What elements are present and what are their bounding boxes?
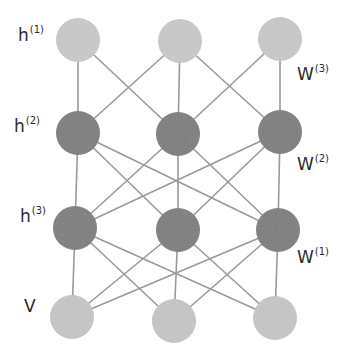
node-v-1 xyxy=(152,299,196,343)
layer-label-1: h(2) xyxy=(14,118,40,135)
layer-label-base: h xyxy=(18,25,29,45)
node-h2-1 xyxy=(156,112,200,156)
layer-label-base: V xyxy=(24,296,36,316)
layer-label-base: h xyxy=(14,116,25,136)
node-h3-2 xyxy=(256,208,300,252)
node-h3-1 xyxy=(156,208,200,252)
layer-label-3: V xyxy=(24,298,36,315)
node-h2-0 xyxy=(56,111,100,155)
weight-label-2: W(1) xyxy=(297,249,329,266)
weight-label-base: W xyxy=(297,64,314,84)
weight-label-0: W(3) xyxy=(297,66,329,83)
node-v-0 xyxy=(50,295,94,339)
layer-label-superscript: (1) xyxy=(30,24,44,35)
weight-label-superscript: (2) xyxy=(315,153,329,164)
weight-label-base: W xyxy=(297,247,314,267)
layer-label-2: h(3) xyxy=(20,208,46,225)
node-h1-2 xyxy=(258,17,302,61)
weight-label-1: W(2) xyxy=(297,156,329,173)
node-h1-0 xyxy=(56,18,100,62)
layer-label-0: h(1) xyxy=(18,27,44,44)
node-v-2 xyxy=(253,296,297,340)
weight-label-base: W xyxy=(297,154,314,174)
neural-network-diagram xyxy=(0,0,352,357)
layer-label-superscript: (3) xyxy=(32,205,46,216)
layer-label-superscript: (2) xyxy=(26,115,40,126)
edges-group xyxy=(72,39,280,321)
weight-label-superscript: (3) xyxy=(315,63,329,74)
node-h3-0 xyxy=(53,206,97,250)
node-h1-1 xyxy=(158,19,202,63)
layer-label-base: h xyxy=(20,206,31,226)
weight-label-superscript: (1) xyxy=(315,246,329,257)
node-h2-2 xyxy=(258,110,302,154)
